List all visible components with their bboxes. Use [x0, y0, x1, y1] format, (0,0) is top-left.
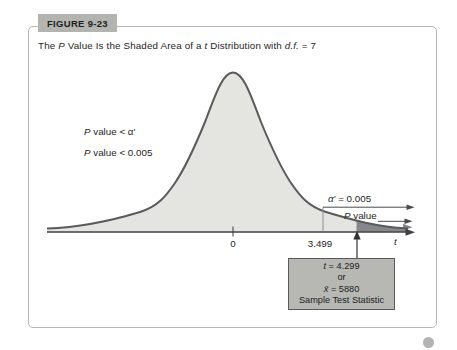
- figure-label-text: FIGURE 9-23: [47, 18, 108, 29]
- stat-or-text: or: [337, 272, 345, 282]
- caption-text: The: [38, 40, 58, 51]
- x-axis-arrow-icon: [406, 229, 416, 236]
- stat-caption-text: Sample Test Statistic: [299, 295, 384, 305]
- note-text: value < α′: [91, 126, 136, 137]
- figure-caption: The P Value Is the Shaded Area of a t Di…: [38, 40, 316, 51]
- p-value-lt-alpha-note: P value < α′: [84, 126, 135, 137]
- stat-line-xbar: x̄ = 5880: [289, 284, 394, 295]
- axis-label-critical: 3.499: [303, 238, 337, 249]
- p-value-tail-label: P value: [344, 210, 377, 221]
- caption-text: Value Is the Shaded Area of a: [65, 40, 205, 51]
- stat-line-or: or: [289, 272, 394, 283]
- p-value-arrow-icon: [405, 219, 413, 225]
- sample-statistic-box: t = 4.299 or x̄ = 5880 Sample Test Stati…: [288, 258, 395, 310]
- p-value-lt-005-note: P value < 0.005: [84, 147, 152, 158]
- axis-label-t: t: [394, 236, 397, 247]
- stat-t-value: = 4.299: [326, 261, 359, 271]
- stat-line-t: t = 4.299: [289, 261, 394, 272]
- alpha-value-text: = 0.005: [335, 193, 371, 204]
- note-text: value: [351, 210, 377, 221]
- axis-t-text: t: [394, 236, 397, 247]
- page-bullet-dot: [423, 337, 434, 348]
- stat-line-caption: Sample Test Statistic: [289, 295, 394, 306]
- alpha-value-label: α′ = 0.005: [328, 193, 371, 204]
- note-text: value < 0.005: [91, 147, 153, 158]
- figure-label: FIGURE 9-23: [38, 14, 117, 32]
- caption-text: Distribution with: [207, 40, 284, 51]
- textbook-figure: FIGURE 9-23 The P Value Is the Shaded Ar…: [0, 0, 457, 350]
- stat-xbar-value: = 5880: [328, 284, 359, 294]
- axis-zero-text: 0: [230, 238, 235, 249]
- caption-italic-df: d.f.: [285, 40, 299, 51]
- alpha-arrow-icon: [407, 204, 415, 210]
- axis-label-zero: 0: [228, 238, 238, 249]
- axis-critical-text: 3.499: [308, 238, 333, 249]
- caption-italic-p: P: [58, 40, 65, 51]
- caption-text: = 7: [299, 40, 316, 51]
